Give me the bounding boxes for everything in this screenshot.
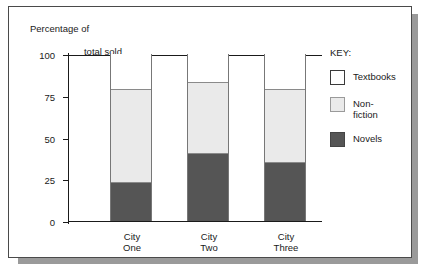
bar-segment-novels-city-three — [265, 163, 305, 221]
bar-city-two[interactable] — [187, 54, 229, 221]
figure-container: Percentage of total sold 100 75 50 25 0 — [0, 0, 425, 273]
legend-swatch-novels-icon — [330, 132, 345, 147]
legend-swatch-textbooks-icon — [330, 70, 345, 85]
x-tick-label-city-three-line-2: Three — [251, 242, 321, 253]
bar-city-three[interactable] — [264, 54, 306, 221]
legend-label-textbooks: Textbooks — [353, 70, 396, 83]
x-axis-line — [68, 221, 322, 222]
bar-segment-nonfiction-city-three — [265, 89, 305, 162]
y-axis-line — [68, 53, 69, 224]
legend-title: KEY: — [330, 47, 410, 58]
x-tick-label-city-one: City One — [97, 231, 167, 253]
legend-item-textbooks[interactable]: Textbooks — [330, 70, 410, 85]
bar-segment-textbooks-city-two — [188, 54, 228, 82]
plot-area: 100 75 50 25 0 City One — [68, 55, 320, 222]
bar-segment-novels-city-one — [111, 183, 151, 221]
bar-segment-nonfiction-city-two — [188, 82, 228, 154]
x-tick-label-city-one-line-1: City — [97, 231, 167, 242]
x-tick-label-city-two: City Two — [174, 231, 244, 253]
y-tick-label-75: 75 — [44, 91, 55, 102]
y-tick-mark-75: 75 — [63, 97, 68, 98]
bar-segment-novels-city-two — [188, 154, 228, 221]
bar-segment-nonfiction-city-one — [111, 89, 151, 183]
y-tick-label-25: 25 — [44, 175, 55, 186]
page-shadow-right — [412, 14, 418, 264]
y-tick-label-50: 50 — [44, 133, 55, 144]
x-tick-label-city-three-line-1: City — [251, 231, 321, 242]
y-tick-mark-0: 0 — [63, 222, 68, 223]
x-tick-label-city-one-line-2: One — [97, 242, 167, 253]
legend-label-novels: Novels — [353, 132, 382, 145]
y-tick-mark-25: 25 — [63, 180, 68, 181]
bar-city-one[interactable] — [110, 54, 152, 221]
y-tick-mark-50: 50 — [63, 139, 68, 140]
x-tick-label-city-three: City Three — [251, 231, 321, 253]
bar-segment-textbooks-city-three — [265, 54, 305, 89]
y-tick-label-0: 0 — [50, 217, 55, 228]
legend-swatch-nonfiction-icon — [330, 97, 345, 112]
x-tick-label-city-two-line-2: Two — [174, 242, 244, 253]
legend-item-nonfiction[interactable]: Non- fiction — [330, 97, 410, 120]
legend: KEY: Textbooks Non- fiction Novels — [330, 47, 410, 159]
bar-segment-textbooks-city-one — [111, 54, 151, 89]
y-tick-mark-100: 100 — [63, 55, 68, 56]
x-tick-label-city-two-line-1: City — [174, 231, 244, 242]
chart-title-line-1: Percentage of — [28, 23, 178, 35]
legend-item-novels[interactable]: Novels — [330, 132, 410, 147]
legend-label-nonfiction: Non- fiction — [353, 97, 378, 120]
y-tick-label-100: 100 — [39, 50, 55, 61]
page-shadow-bottom — [18, 258, 418, 264]
